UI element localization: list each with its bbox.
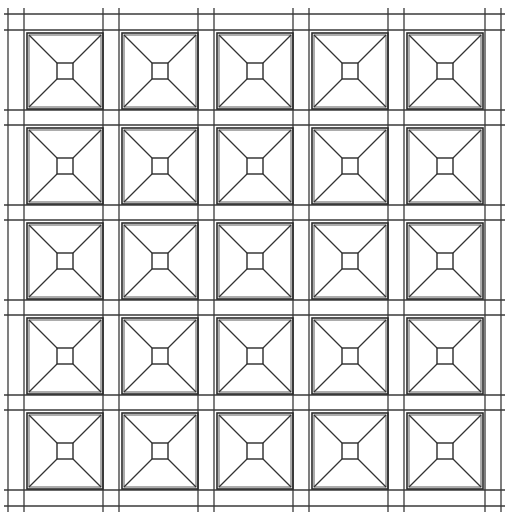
tile-inner-square <box>342 63 358 79</box>
pyramid-tile <box>122 128 198 204</box>
tile-diagonal <box>73 269 101 297</box>
tile-diagonal <box>124 415 152 443</box>
tile-inner-square <box>247 348 263 364</box>
tile-diagonal <box>219 415 247 443</box>
tile-diagonal <box>409 364 437 392</box>
tile-diagonal <box>358 225 386 253</box>
tile-diagonal <box>168 130 196 158</box>
tile-diagonal <box>453 130 481 158</box>
tile-diagonal <box>263 459 291 487</box>
tile-diagonal <box>453 364 481 392</box>
tile-diagonal <box>29 35 57 63</box>
tile-diagonal <box>168 269 196 297</box>
pyramid-tile <box>407 128 483 204</box>
tile-diagonal <box>314 320 342 348</box>
tile-inner-square <box>437 443 453 459</box>
tile-diagonal <box>358 35 386 63</box>
tile-diagonal <box>358 174 386 202</box>
tile-diagonal <box>314 415 342 443</box>
tile-inner-square <box>342 443 358 459</box>
tile-diagonal <box>73 174 101 202</box>
tile-inner-square <box>247 253 263 269</box>
tile-diagonal <box>29 79 57 107</box>
pyramid-tile <box>27 33 103 109</box>
tile-diagonal <box>263 364 291 392</box>
tile-diagonal <box>124 225 152 253</box>
tile-inner-square <box>437 63 453 79</box>
tile-diagonal <box>168 225 196 253</box>
tile-diagonal <box>219 320 247 348</box>
pyramid-tile <box>312 223 388 299</box>
pyramid-tile <box>217 33 293 109</box>
tile-inner-square <box>57 253 73 269</box>
pyramid-tile <box>27 223 103 299</box>
tile-diagonal <box>73 79 101 107</box>
tile-inner-square <box>57 63 73 79</box>
pyramid-tile <box>312 413 388 489</box>
tile-diagonal <box>358 269 386 297</box>
tile-diagonal <box>124 364 152 392</box>
tile-diagonal <box>168 79 196 107</box>
tile-diagonal <box>219 174 247 202</box>
tile-diagonal <box>409 269 437 297</box>
coffer-grid-drawing <box>0 0 513 523</box>
tile-inner-square <box>437 253 453 269</box>
tile-diagonal <box>73 415 101 443</box>
tile-diagonal <box>124 79 152 107</box>
tile-diagonal <box>314 35 342 63</box>
pyramid-tile <box>27 128 103 204</box>
tile-diagonal <box>219 225 247 253</box>
tile-diagonal <box>168 415 196 443</box>
tile-diagonal <box>124 320 152 348</box>
pyramid-tile <box>407 33 483 109</box>
tile-diagonal <box>73 364 101 392</box>
tile-diagonal <box>29 415 57 443</box>
pyramid-tile <box>122 33 198 109</box>
tile-diagonal <box>73 35 101 63</box>
tile-diagonal <box>358 130 386 158</box>
pyramid-tile <box>122 413 198 489</box>
tile-inner-square <box>152 443 168 459</box>
tile-diagonal <box>124 35 152 63</box>
tile-diagonal <box>219 130 247 158</box>
tile-diagonal <box>29 269 57 297</box>
tile-inner-square <box>57 443 73 459</box>
tile-inner-square <box>342 158 358 174</box>
tile-diagonal <box>29 459 57 487</box>
tile-diagonal <box>314 459 342 487</box>
tile-diagonal <box>219 79 247 107</box>
tile-inner-square <box>247 443 263 459</box>
pyramid-tile <box>217 318 293 394</box>
tile-diagonal <box>409 459 437 487</box>
tile-diagonal <box>29 174 57 202</box>
tile-inner-square <box>437 348 453 364</box>
tile-diagonal <box>263 35 291 63</box>
grid-svg <box>0 0 513 523</box>
tile-diagonal <box>263 79 291 107</box>
tile-diagonal <box>453 320 481 348</box>
tile-diagonal <box>29 130 57 158</box>
tile-diagonal <box>219 35 247 63</box>
tile-diagonal <box>219 459 247 487</box>
tile-diagonal <box>453 79 481 107</box>
tile-diagonal <box>124 174 152 202</box>
tile-diagonal <box>124 459 152 487</box>
tile-diagonal <box>29 225 57 253</box>
tile-diagonal <box>314 269 342 297</box>
tile-diagonal <box>409 320 437 348</box>
pyramid-tile <box>407 318 483 394</box>
tile-inner-square <box>342 253 358 269</box>
tile-diagonal <box>453 174 481 202</box>
tile-diagonal <box>73 225 101 253</box>
tile-diagonal <box>29 320 57 348</box>
pyramid-tile <box>407 413 483 489</box>
tile-diagonal <box>453 415 481 443</box>
tile-diagonal <box>263 415 291 443</box>
tile-inner-square <box>152 348 168 364</box>
tile-diagonal <box>168 320 196 348</box>
tile-diagonal <box>358 320 386 348</box>
tile-diagonal <box>263 320 291 348</box>
pyramid-tile <box>312 33 388 109</box>
pyramid-tile <box>122 223 198 299</box>
tile-diagonal <box>409 79 437 107</box>
